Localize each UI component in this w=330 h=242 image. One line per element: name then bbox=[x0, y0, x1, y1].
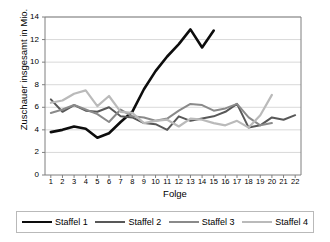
y-tick-label: 2 bbox=[23, 148, 39, 156]
legend-entry-4[interactable]: Staffel 4 bbox=[242, 218, 308, 227]
x-tick-label: 22 bbox=[288, 178, 302, 186]
y-axis-label: Zuschauer insgesamt in Mio. bbox=[18, 0, 29, 145]
series-line-1 bbox=[51, 29, 214, 137]
y-tick-label: 4 bbox=[23, 126, 39, 134]
y-tick-label: 6 bbox=[23, 103, 39, 111]
chart-figure: Zuschauer insgesamt in Mio. 02468101214 … bbox=[0, 0, 330, 242]
data-series-group bbox=[51, 29, 295, 137]
chart-legend: Staffel 1Staffel 2Staffel 3Staffel 4 bbox=[16, 211, 314, 233]
y-tick-label: 0 bbox=[23, 171, 39, 179]
y-tick-label: 8 bbox=[23, 81, 39, 89]
legend-entry-3[interactable]: Staffel 3 bbox=[169, 218, 235, 227]
x-tick-marks-group bbox=[42, 17, 295, 178]
y-tick-label: 10 bbox=[23, 58, 39, 66]
gridlines-group bbox=[45, 17, 301, 152]
plot-frame: Zuschauer insgesamt in Mio. 02468101214 … bbox=[2, 2, 326, 200]
plot-canvas bbox=[2, 2, 326, 200]
y-tick-label: 12 bbox=[23, 36, 39, 44]
legend-entry-2[interactable]: Staffel 2 bbox=[95, 218, 161, 227]
x-axis-label: Folge bbox=[47, 188, 303, 199]
legend-line-swatch bbox=[95, 221, 125, 223]
axis-frame-group bbox=[45, 17, 301, 175]
legend-label: Staffel 2 bbox=[128, 218, 161, 227]
legend-line-swatch bbox=[242, 221, 272, 223]
legend-label: Staffel 4 bbox=[275, 218, 308, 227]
legend-label: Staffel 1 bbox=[55, 218, 88, 227]
y-tick-label: 14 bbox=[23, 13, 39, 21]
legend-line-swatch bbox=[22, 221, 52, 223]
legend-line-swatch bbox=[169, 221, 199, 223]
legend-entry-1[interactable]: Staffel 1 bbox=[22, 218, 88, 227]
legend-label: Staffel 3 bbox=[202, 218, 235, 227]
